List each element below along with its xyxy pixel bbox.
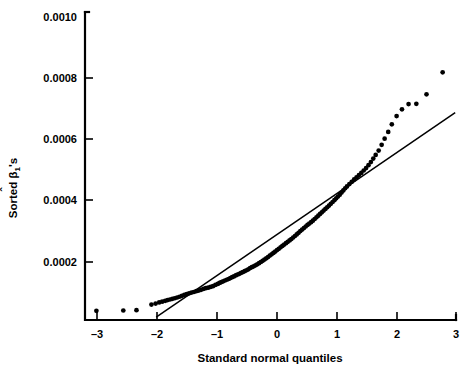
y-tick-label-0.0002: 0.0002 bbox=[43, 256, 77, 268]
data-point-group bbox=[94, 70, 445, 313]
x-axis-title: Standard normal quantiles bbox=[197, 352, 342, 364]
y-tick-label-0.0006: 0.0006 bbox=[43, 133, 77, 145]
data-point bbox=[424, 92, 429, 97]
data-point bbox=[376, 148, 381, 153]
data-point bbox=[414, 101, 419, 106]
x-axis-tick-labels: –3 –2 –1 0 1 2 3 bbox=[91, 328, 459, 340]
data-point bbox=[382, 136, 387, 141]
x-tick-label--2: –2 bbox=[151, 328, 163, 340]
qq-plot-canvas: 0.0010 0.0008 0.0006 0.0004 0.0002 –3 –2… bbox=[0, 0, 463, 371]
x-tick-label-1: 1 bbox=[334, 328, 340, 340]
x-tick-label--3: –3 bbox=[91, 328, 103, 340]
y-tick-label-0.0010: 0.0010 bbox=[43, 11, 77, 23]
x-tick-label--1: –1 bbox=[211, 328, 223, 340]
data-point bbox=[149, 302, 154, 307]
x-axis-ticks bbox=[97, 312, 456, 320]
qq-plot-figure: 0.0010 0.0008 0.0006 0.0004 0.0002 –3 –2… bbox=[0, 0, 463, 371]
y-axis-title-symbol: β bbox=[7, 171, 19, 178]
data-point bbox=[440, 70, 445, 75]
y-tick-label-0.0004: 0.0004 bbox=[43, 194, 78, 206]
axis-lines bbox=[85, 12, 456, 320]
data-point bbox=[134, 308, 139, 313]
data-point bbox=[386, 130, 391, 135]
data-point bbox=[379, 142, 384, 147]
data-point bbox=[389, 122, 394, 127]
y-axis-title-prefix: Sorted bbox=[7, 179, 19, 219]
x-tick-label-0: 0 bbox=[274, 328, 280, 340]
data-point bbox=[400, 107, 405, 112]
data-point bbox=[406, 102, 411, 107]
y-axis-title-suffix: 's bbox=[7, 158, 19, 167]
data-point bbox=[394, 114, 399, 119]
data-point bbox=[373, 153, 378, 158]
y-axis-tick-labels: 0.0010 0.0008 0.0006 0.0004 0.0002 bbox=[43, 11, 78, 268]
axes-frame bbox=[85, 12, 456, 320]
y-axis-ticks bbox=[85, 78, 93, 262]
data-point bbox=[94, 308, 99, 313]
data-point bbox=[121, 308, 126, 313]
reference-line bbox=[156, 113, 455, 318]
y-tick-label-0.0008: 0.0008 bbox=[43, 72, 77, 84]
x-tick-label-2: 2 bbox=[394, 328, 400, 340]
y-axis-title: Sorted β1's ˆ bbox=[0, 158, 22, 218]
x-tick-label-3: 3 bbox=[453, 328, 459, 340]
